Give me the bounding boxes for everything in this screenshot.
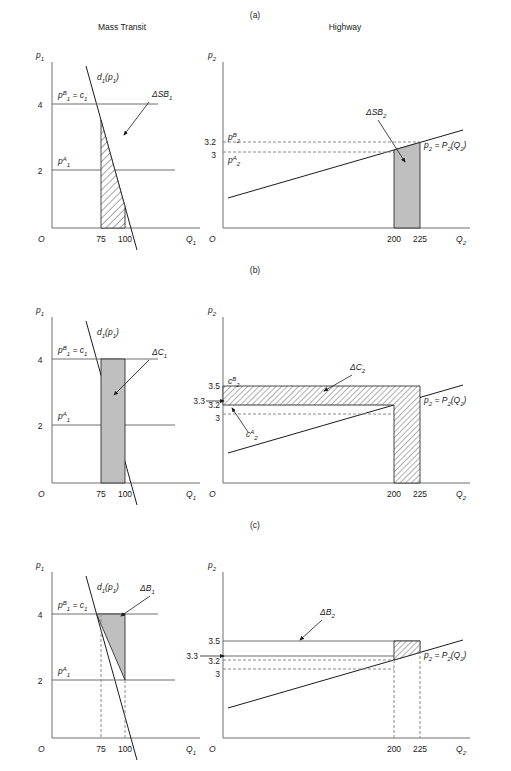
left-xtick-75: 75 bbox=[96, 744, 106, 754]
right-x-axis-label: Q2 bbox=[456, 489, 467, 501]
right-cost-a-label: cA2 bbox=[246, 429, 258, 441]
left-chart-b: p1Q1Od1(p1)4275100pB1 = c1pA1ΔC1 bbox=[35, 305, 200, 505]
price-a-label: pA1 bbox=[57, 411, 70, 423]
panel-letter-a: (a) bbox=[250, 10, 261, 20]
demand-curve-label: d1(p1) bbox=[97, 582, 119, 594]
left-shaded-region bbox=[101, 359, 125, 483]
left-chart-a: p1Q1Od1(p1)4275100pB1 = c1pA1ΔSB1 bbox=[35, 50, 200, 250]
left-axes bbox=[52, 62, 200, 228]
supply-curve-label: p2 = P2(Q2) bbox=[423, 650, 467, 662]
right-cost-a-leader bbox=[232, 408, 248, 432]
left-xtick-100: 100 bbox=[118, 489, 132, 499]
supply-curve-label: p2 = P2(Q2) bbox=[423, 140, 467, 152]
right-origin-label: O bbox=[209, 489, 216, 499]
panel-letter-b: (b) bbox=[250, 265, 261, 275]
right-chart-c: p2Q2Op2 = P2(Q2)2002253.53.33.23ΔB2 bbox=[186, 560, 470, 756]
right-shaded-region bbox=[394, 641, 420, 660]
left-y-axis-label: p1 bbox=[35, 305, 44, 317]
right-xtick-200: 200 bbox=[387, 744, 401, 754]
left-y-axis-label: p1 bbox=[35, 50, 44, 62]
price-b-label: pB1 = c1 bbox=[57, 345, 87, 357]
right-x-axis-label: Q2 bbox=[456, 234, 467, 246]
left-ytick-2: 2 bbox=[38, 166, 43, 176]
right-ytick-3-5: 3.5 bbox=[208, 636, 220, 646]
left-ytick-2: 2 bbox=[38, 676, 43, 686]
right-xtick-225: 225 bbox=[413, 489, 427, 499]
left-region-label: ΔSB1 bbox=[151, 89, 172, 101]
right-ytick-3-2: 3.2 bbox=[204, 137, 216, 147]
right-chart-b: p2Q2Op2 = P2(Q2)2002253.53.33.23cB2cA2ΔC… bbox=[193, 305, 470, 501]
left-shaded-region bbox=[101, 120, 125, 228]
right-chart-a: p2Q2Op2 = P2(Q2)2002253.23pB2pA2ΔSB2 bbox=[204, 50, 470, 246]
right-y-axis-label: p2 bbox=[207, 50, 217, 62]
right-ytick-3-5: 3.5 bbox=[208, 381, 220, 391]
right-y-axis-label: p2 bbox=[207, 560, 217, 572]
right-ytick-3: 3 bbox=[211, 150, 216, 160]
right-ytick-3: 3 bbox=[215, 413, 220, 423]
left-xtick-75: 75 bbox=[96, 234, 106, 244]
right-origin-label: O bbox=[209, 234, 216, 244]
right-chart-title: Highway bbox=[329, 22, 362, 32]
panel-letter-c: (c) bbox=[250, 520, 260, 530]
right-price-a-label: pA2 bbox=[227, 155, 241, 167]
panel-a: (a)Mass TransitHighwayp1Q1Od1(p1)4275100… bbox=[35, 10, 470, 250]
right-region-leader bbox=[378, 120, 405, 162]
left-ytick-4: 4 bbox=[38, 610, 43, 620]
left-origin-label: O bbox=[38, 489, 45, 499]
right-ytick-3-2: 3.2 bbox=[208, 656, 220, 666]
figure-canvas: (a)Mass TransitHighwayp1Q1Od1(p1)4275100… bbox=[0, 0, 511, 771]
right-region-label: ΔB2 bbox=[319, 607, 335, 619]
panel-b: (b)p1Q1Od1(p1)4275100pB1 = c1pA1ΔC1p2Q2O… bbox=[35, 265, 470, 505]
left-ytick-4: 4 bbox=[38, 355, 43, 365]
left-y-axis-label: p1 bbox=[35, 560, 44, 572]
left-x-axis-label: Q1 bbox=[186, 744, 196, 756]
left-origin-label: O bbox=[38, 234, 45, 244]
right-region-label: ΔC2 bbox=[349, 362, 366, 374]
left-xtick-100: 100 bbox=[118, 744, 132, 754]
panel-c: (c)p1Q1Od1(p1)4275100pB1 = c1pA1ΔB1p2Q2O… bbox=[35, 520, 470, 760]
price-b-label: pB1 = c1 bbox=[57, 90, 87, 102]
right-ytick-3-2: 3.2 bbox=[208, 400, 220, 410]
right-ytick-3: 3 bbox=[215, 669, 220, 679]
right-y-axis-label: p2 bbox=[207, 305, 217, 317]
left-region-leader bbox=[124, 102, 149, 135]
right-ytick-3-3: 3.3 bbox=[186, 651, 198, 661]
left-ytick-2: 2 bbox=[38, 421, 43, 431]
left-chart-c: p1Q1Od1(p1)4275100pB1 = c1pA1ΔB1 bbox=[35, 560, 200, 760]
demand-curve-label: d1(p1) bbox=[97, 327, 119, 339]
demand-curve-label: d1(p1) bbox=[97, 72, 119, 84]
supply-curve-label: p2 = P2(Q2) bbox=[423, 395, 467, 407]
right-region-label: ΔSB2 bbox=[365, 107, 387, 119]
left-xtick-75: 75 bbox=[96, 489, 106, 499]
right-xtick-200: 200 bbox=[387, 234, 401, 244]
economics-figure: (a)Mass TransitHighwayp1Q1Od1(p1)4275100… bbox=[0, 0, 511, 771]
right-shaded-region bbox=[394, 142, 420, 228]
demand-curve bbox=[86, 576, 137, 760]
left-x-axis-label: Q1 bbox=[186, 234, 196, 246]
price-a-label: pA1 bbox=[57, 666, 70, 678]
right-x-axis-label: Q2 bbox=[456, 744, 467, 756]
price-b-label: pB1 = c1 bbox=[57, 600, 87, 612]
right-ytick-3-3: 3.3 bbox=[193, 396, 205, 406]
right-xtick-225: 225 bbox=[413, 744, 427, 754]
left-axes bbox=[52, 317, 200, 483]
left-x-axis-label: Q1 bbox=[186, 489, 196, 501]
price-a-label: pA1 bbox=[57, 156, 70, 168]
right-origin-label: O bbox=[209, 744, 216, 754]
left-xtick-100: 100 bbox=[118, 234, 132, 244]
left-region-leader bbox=[121, 596, 150, 616]
left-region-label: ΔB1 bbox=[139, 583, 155, 595]
right-xtick-200: 200 bbox=[387, 489, 401, 499]
left-chart-title: Mass Transit bbox=[98, 22, 147, 32]
left-ytick-4: 4 bbox=[38, 100, 43, 110]
right-region-leader bbox=[300, 620, 322, 640]
left-axes bbox=[52, 572, 200, 738]
right-xtick-225: 225 bbox=[413, 234, 427, 244]
left-origin-label: O bbox=[38, 744, 45, 754]
left-region-label: ΔC1 bbox=[151, 347, 167, 359]
